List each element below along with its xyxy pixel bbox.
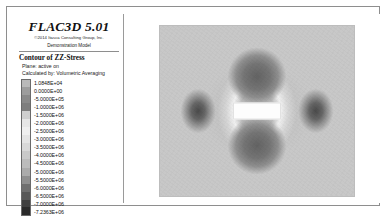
color-scale-row: -5.5000E+06 bbox=[21, 176, 120, 184]
color-scale-row: -2.0000E+06 bbox=[21, 119, 120, 127]
legend-divider bbox=[19, 51, 119, 52]
color-scale: 1.0848E+040.0000E+00-5.0000E+05-1.0000E+… bbox=[21, 79, 120, 216]
color-swatch bbox=[21, 127, 31, 135]
color-scale-value: -2.5000E+06 bbox=[34, 128, 64, 134]
color-swatch bbox=[21, 192, 31, 200]
color-swatch bbox=[21, 135, 31, 143]
color-swatch bbox=[21, 207, 31, 216]
color-scale-value: -5.5000E+06 bbox=[34, 177, 64, 183]
color-scale-value: 1.0848E+04 bbox=[34, 80, 62, 86]
color-scale-row: -1.0000E+06 bbox=[21, 103, 120, 111]
color-scale-value: -1.0000E+06 bbox=[34, 104, 64, 110]
color-swatch bbox=[21, 168, 31, 176]
copyright-text: ©2014 Itasca Consulting Group, Inc. bbox=[18, 35, 120, 41]
color-scale-row: -6.0000E+06 bbox=[21, 184, 120, 192]
color-scale-row: -3.5000E+06 bbox=[21, 143, 120, 151]
contour-plot bbox=[159, 25, 355, 197]
color-scale-value: -7.2363E+06 bbox=[34, 209, 64, 215]
plane-info: Plane: active on bbox=[22, 63, 120, 70]
calculation-method: Calculated by: Volumetric Averaging bbox=[22, 70, 120, 77]
color-scale-row: -7.0000E+06 bbox=[21, 200, 120, 208]
color-swatch bbox=[21, 119, 31, 127]
color-scale-value: -3.0000E+06 bbox=[34, 136, 64, 142]
color-swatch bbox=[21, 159, 31, 167]
color-scale-value: -2.0000E+06 bbox=[34, 120, 64, 126]
flac3d-plot-window: FLAC3D 5.01 ©2014 Itasca Consulting Grou… bbox=[0, 0, 386, 217]
color-scale-row: -4.5000E+06 bbox=[21, 159, 120, 167]
app-title: FLAC3D 5.01 bbox=[18, 19, 120, 34]
color-scale-row: -2.5000E+06 bbox=[21, 127, 120, 135]
color-scale-value: -5.0000E+06 bbox=[34, 169, 64, 175]
color-scale-value: -3.5000E+06 bbox=[34, 144, 64, 150]
plot-border bbox=[159, 25, 355, 197]
color-scale-value: -6.0000E+06 bbox=[34, 185, 64, 191]
color-scale-value: -1.5000E+06 bbox=[34, 112, 64, 118]
color-scale-row: 0.0000E+00 bbox=[21, 87, 120, 95]
color-scale-row: -1.5000E+06 bbox=[21, 111, 120, 119]
color-scale-value: -7.0000E+06 bbox=[34, 201, 64, 207]
color-scale-row: -7.2363E+06 bbox=[21, 208, 120, 216]
color-scale-value: 0.0000E+00 bbox=[34, 88, 62, 94]
color-swatch bbox=[21, 111, 31, 119]
model-name: Demonstration Model bbox=[18, 42, 120, 49]
color-scale-row: -5.0000E+05 bbox=[21, 95, 120, 103]
color-scale-row: -4.0000E+06 bbox=[21, 151, 120, 159]
contour-title: Contour of ZZ-Stress bbox=[19, 54, 120, 63]
color-scale-value: -5.0000E+05 bbox=[34, 96, 64, 102]
color-scale-row: -6.5000E+06 bbox=[21, 192, 120, 200]
legend-panel: FLAC3D 5.01 ©2014 Itasca Consulting Grou… bbox=[14, 14, 124, 203]
color-scale-row: -5.0000E+06 bbox=[21, 168, 120, 176]
color-scale-value: -6.5000E+06 bbox=[34, 193, 64, 199]
color-swatch bbox=[21, 87, 31, 95]
window-frame: FLAC3D 5.01 ©2014 Itasca Consulting Grou… bbox=[6, 6, 380, 206]
color-scale-row: -3.0000E+06 bbox=[21, 135, 120, 143]
color-swatch bbox=[21, 151, 31, 159]
color-scale-value: -4.5000E+06 bbox=[34, 160, 64, 166]
color-swatch bbox=[21, 184, 31, 192]
color-scale-value: -4.0000E+06 bbox=[34, 152, 64, 158]
plot-pane bbox=[125, 14, 384, 203]
color-swatch bbox=[21, 176, 31, 184]
color-swatch bbox=[21, 143, 31, 151]
color-swatch bbox=[21, 95, 31, 103]
color-scale-row: 1.0848E+04 bbox=[21, 79, 120, 87]
color-swatch bbox=[21, 103, 31, 111]
